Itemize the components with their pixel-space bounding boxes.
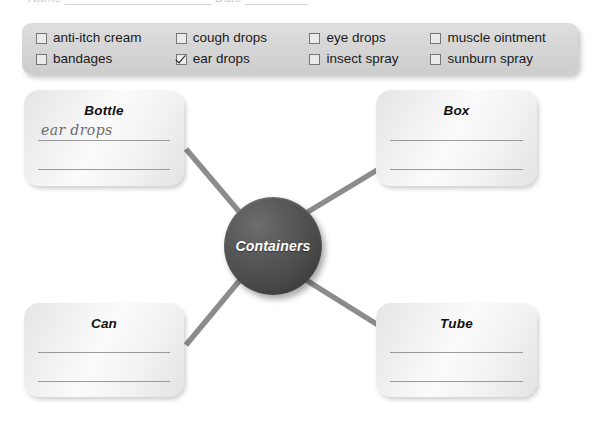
node-answer-text-bottle-1[interactable]: ear drops bbox=[41, 122, 113, 138]
node-can[interactable]: Can bbox=[24, 303, 184, 397]
node-title-bottle: Bottle bbox=[24, 103, 184, 118]
node-title-box: Box bbox=[376, 103, 537, 118]
node-answer-line-1-can bbox=[38, 352, 170, 353]
center-node-label: Containers bbox=[235, 238, 310, 254]
node-answer-line-1-box bbox=[390, 140, 523, 141]
node-title-can: Can bbox=[24, 316, 184, 331]
node-bottle[interactable]: Bottle ear drops bbox=[24, 90, 184, 186]
center-node-containers[interactable]: Containers bbox=[224, 197, 322, 295]
node-answer-line-2-bottle bbox=[38, 169, 170, 170]
worksheet-canvas: Name _____________________ Date ________… bbox=[0, 0, 598, 427]
node-answer-line-2-can bbox=[38, 381, 170, 382]
node-answer-line-1-bottle bbox=[38, 140, 170, 141]
node-title-tube: Tube bbox=[376, 316, 537, 331]
connector-bottle bbox=[186, 149, 242, 215]
node-answer-line-2-box bbox=[390, 169, 523, 170]
node-answer-line-1-tube bbox=[390, 352, 523, 353]
node-tube[interactable]: Tube bbox=[376, 303, 537, 397]
node-box[interactable]: Box bbox=[376, 90, 537, 186]
connector-can bbox=[186, 280, 240, 345]
node-answer-line-2-tube bbox=[390, 381, 523, 382]
